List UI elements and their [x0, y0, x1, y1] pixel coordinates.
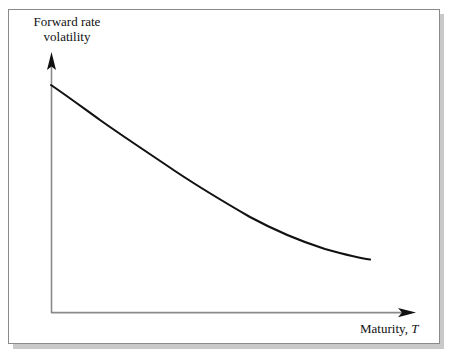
plot-area: [0, 0, 455, 360]
y-axis-label-line-2: volatility: [12, 29, 122, 44]
volatility-curve: [51, 85, 370, 260]
figure-root: Forward rate volatility Maturity, T: [0, 0, 455, 360]
x-axis-label: Maturity, T: [360, 321, 418, 336]
x-axis-label-text: Maturity,: [360, 321, 408, 336]
x-axis-label-variable: T: [411, 321, 418, 336]
y-axis-label-line-1: Forward rate: [12, 14, 122, 29]
y-axis-label: Forward rate volatility: [12, 14, 122, 45]
